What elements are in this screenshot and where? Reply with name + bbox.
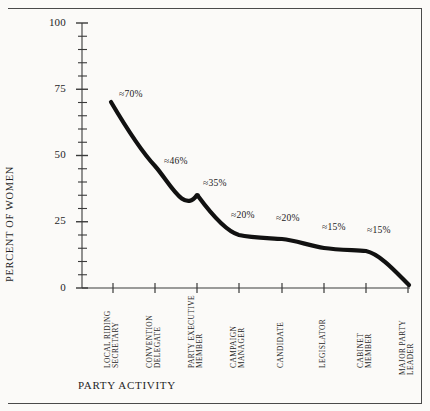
x-category-label-candidate: CANDIDATE: [277, 322, 285, 368]
x-category-label-legislator: LEGISLATOR: [319, 319, 327, 368]
data-label-party-executive-member: ≈35%: [203, 177, 227, 188]
data-label-convention-delegate: ≈46%: [164, 155, 188, 166]
data-label-campaign-manager: ≈20%: [231, 209, 255, 220]
x-category-label-campaign-manager: CAMPAIGN MANAGER: [230, 326, 246, 368]
y-axis-title: PERCENT OF WOMEN: [4, 166, 15, 282]
x-category-label-local-riding-secretary: LOCAL RIDING SECRETARY: [104, 311, 120, 368]
x-category-label-cabinet-member: CABINET MEMBER: [357, 333, 373, 368]
y-tick-label-0: 0: [34, 281, 66, 293]
y-tick-label-50: 50: [34, 148, 66, 160]
y-tick-label-25: 25: [34, 214, 66, 226]
figure-container: 100 75 50 25 0 PERCENT OF WOMEN PARTY AC…: [0, 0, 430, 411]
data-line-percent-of-women: [111, 102, 409, 285]
x-axis-title: PARTY ACTIVITY: [78, 379, 176, 391]
data-label-candidate: ≈20%: [276, 212, 300, 223]
y-tick-label-75: 75: [34, 82, 66, 94]
data-label-cabinet-member: ≈15%: [367, 224, 391, 235]
x-category-label-major-party-leader: MAJOR PARTY LEADER: [399, 320, 415, 375]
y-tick-label-100: 100: [34, 16, 66, 28]
data-label-local-riding-secretary: ≈70%: [119, 88, 143, 99]
x-category-label-party-executive-member: PARTY EXECUTIVE MEMBER: [188, 295, 204, 368]
x-category-label-convention-delegate: CONVENTION DELEGATE: [146, 315, 162, 368]
data-label-legislator: ≈15%: [322, 221, 346, 232]
